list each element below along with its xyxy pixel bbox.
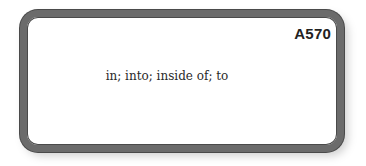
card-id-label: A570 — [294, 25, 331, 42]
flashcard: A570 in; into; inside of; to — [20, 10, 344, 152]
card-definition: in; into; inside of; to — [27, 69, 337, 83]
